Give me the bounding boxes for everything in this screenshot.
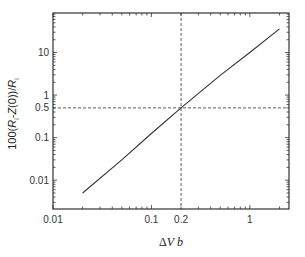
plot-frame <box>53 13 289 209</box>
x-title-v: V <box>167 235 176 249</box>
x-axis-title: ΔVb <box>159 235 183 249</box>
y-tick-label: 0.01 <box>30 175 50 186</box>
minor-ticks <box>53 13 289 209</box>
y-title-prefix: 100( <box>6 127 18 149</box>
x-tick-label: 1 <box>247 214 253 225</box>
chart: 0.010.10.21 0.010.10.5110 ΔVb 100(Ri-Z(0… <box>0 0 305 257</box>
y-title-zero: (0))/ <box>6 87 18 108</box>
y-tick-label: 0.1 <box>35 132 49 143</box>
x-tick-label: 0.01 <box>43 214 63 225</box>
y-title-r2: R <box>6 80 18 88</box>
reference-lines <box>53 13 289 209</box>
y-tick-label: 1 <box>43 90 49 101</box>
y-axis-title: 100(Ri-Z(0))/Ri <box>6 78 20 150</box>
x-tick-labels: 0.010.10.21 <box>43 214 253 225</box>
y-tick-label: 0.5 <box>35 102 49 113</box>
y-title-sub2: i <box>13 78 20 80</box>
y-tick-labels: 0.010.10.5110 <box>30 47 50 186</box>
y-tick-label: 10 <box>38 47 50 58</box>
x-title-b: b <box>177 235 183 249</box>
y-title-r: R <box>6 120 18 128</box>
x-tick-label: 0.1 <box>144 214 158 225</box>
x-tick-label: 0.2 <box>174 214 188 225</box>
